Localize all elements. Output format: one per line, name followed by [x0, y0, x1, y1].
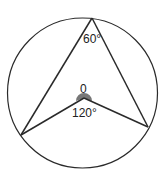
center-label: 0: [80, 82, 87, 96]
circle-theorem-diagram: 60° 0 120°: [0, 0, 165, 179]
apex-angle-label: 60°: [83, 32, 101, 46]
center-angle-label: 120°: [72, 106, 97, 120]
